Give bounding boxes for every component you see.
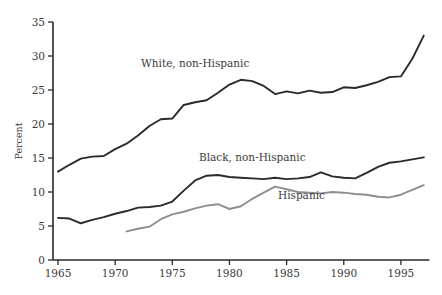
line-chart-svg: 05101520253035 1965197019751980198519901… bbox=[0, 0, 442, 295]
y-tick-label: 35 bbox=[32, 16, 45, 28]
series-line bbox=[58, 157, 424, 223]
series-label: Hispanic bbox=[278, 189, 325, 201]
y-tick-label: 20 bbox=[32, 118, 45, 130]
x-tick-label: 1990 bbox=[330, 267, 357, 279]
y-tick-label: 15 bbox=[32, 152, 45, 164]
y-tick-label: 10 bbox=[32, 186, 45, 198]
series-label: White, non-Hispanic bbox=[141, 57, 249, 69]
series-label: Black, non-Hispanic bbox=[199, 151, 306, 163]
y-axis-title-text: Percent bbox=[13, 122, 24, 159]
y-tick-label: 30 bbox=[32, 50, 45, 62]
x-axis: 1965197019751980198519901995 bbox=[45, 260, 430, 279]
x-tick-label: 1980 bbox=[216, 267, 243, 279]
y-tick-label: 5 bbox=[38, 220, 45, 232]
y-tick-label: 0 bbox=[38, 254, 45, 266]
y-axis-title: Percent bbox=[13, 122, 24, 159]
series-line bbox=[127, 185, 424, 231]
chart-container: 05101520253035 1965197019751980198519901… bbox=[0, 0, 442, 295]
x-tick-label: 1975 bbox=[159, 267, 186, 279]
x-tick-label: 1970 bbox=[102, 267, 129, 279]
x-tick-label: 1965 bbox=[45, 267, 72, 279]
x-tick-label: 1985 bbox=[273, 267, 300, 279]
y-tick-label: 25 bbox=[32, 84, 45, 96]
x-tick-label: 1995 bbox=[388, 267, 415, 279]
y-axis: 05101520253035 bbox=[32, 16, 53, 266]
